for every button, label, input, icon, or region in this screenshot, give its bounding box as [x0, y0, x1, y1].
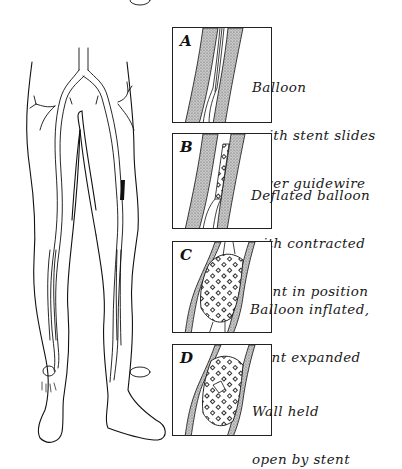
legs-arteries-illustration	[0, 0, 170, 469]
aorta	[79, 48, 88, 70]
panel-letter: D	[180, 349, 193, 367]
caption-d: Wall held open by stent	[252, 371, 350, 469]
panel-letter: C	[180, 246, 192, 264]
panel-letter: A	[180, 32, 192, 50]
panel-letter: B	[180, 138, 193, 156]
right-leg-outline	[96, 62, 165, 440]
